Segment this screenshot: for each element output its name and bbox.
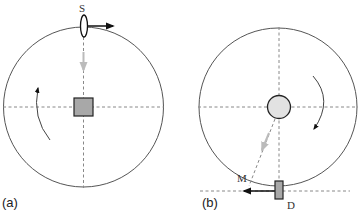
panel-a: S (a) (2, 2, 164, 210)
gray-arrow-diagonal-icon (262, 133, 269, 150)
source-ellipse (81, 15, 88, 37)
source-label: S (79, 2, 85, 14)
panel-label-a: (a) (2, 195, 18, 210)
detector-label: D (287, 199, 295, 211)
diagram-canvas: S (a) M D (b) (0, 0, 358, 212)
center-circle-object (268, 96, 291, 119)
panel-b: M D (b) (198, 27, 358, 211)
ray-label-m: M (237, 172, 247, 184)
center-square-object (74, 98, 93, 116)
counterclockwise-rotation-arrow-icon (37, 88, 51, 140)
panel-label-b: (b) (202, 195, 218, 210)
detector-rectangle (275, 181, 283, 199)
clockwise-rotation-arrow-icon (313, 76, 324, 129)
ray-m-dashed-line (249, 119, 275, 186)
